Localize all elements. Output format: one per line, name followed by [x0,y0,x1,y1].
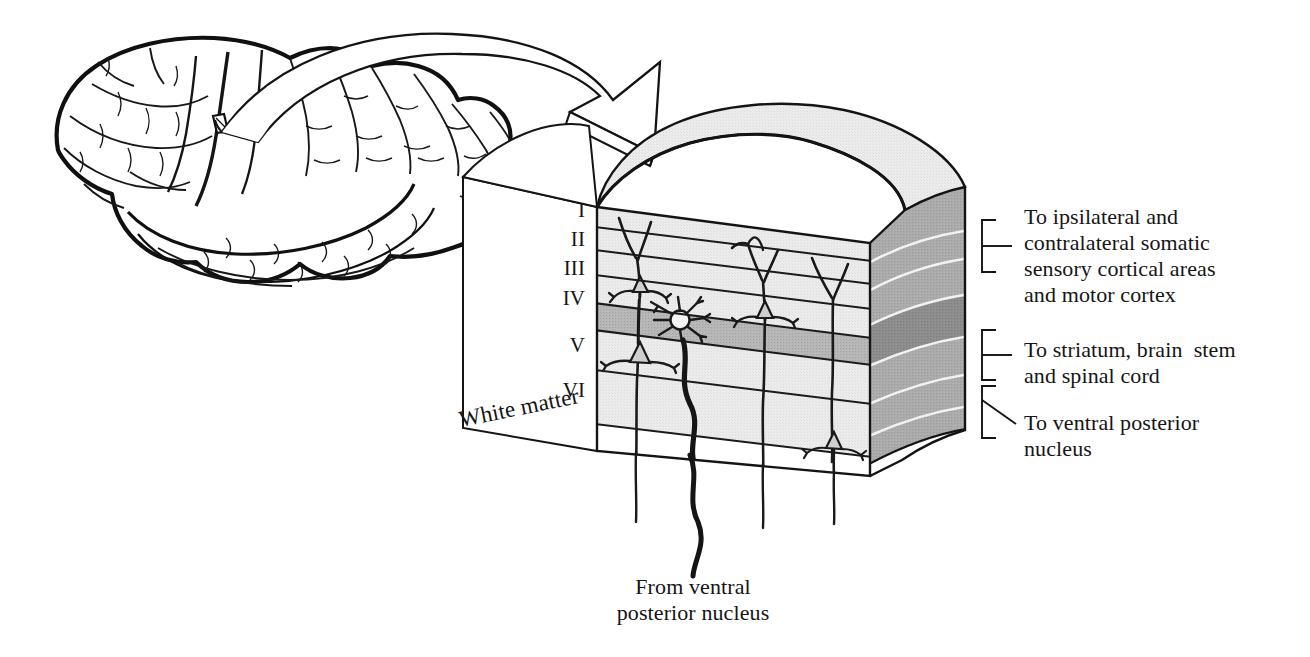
projection-label-cortical: To ipsilateral and contralateral somatic… [1024,204,1216,308]
afferent-caption: From ventral posterior nucleus [563,574,823,626]
projection-label-subcortical: To striatum, brain stem and spinal cord [1024,337,1236,389]
pyramidal-neuron-layer-5 [638,300,639,344]
figure-root: I II III IV V VI White matter To ipsilat… [0,0,1310,657]
projection-label-thalamic: To ventral posterior nucleus [1024,410,1199,462]
lamina-label-IV: IV [545,286,585,311]
figure-drawing [0,0,1310,657]
thalamic-afferent-below-block [690,455,701,576]
lamina-label-I: I [545,198,585,223]
lamina-label-II: II [545,227,585,252]
projection-brackets [982,220,1016,438]
lamina-label-V: V [545,333,585,358]
bracket-lower [982,386,1016,438]
lamina-label-III: III [545,256,585,281]
bracket-upper [982,220,1012,272]
bracket-middle [982,330,1012,380]
